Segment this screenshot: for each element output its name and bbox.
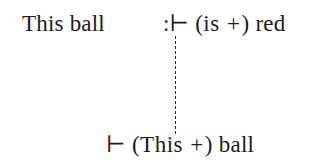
- type-group-bottom: (This +): [132, 132, 213, 157]
- dashed-connector-line: [175, 36, 176, 134]
- plus-icon-top: +: [226, 11, 241, 36]
- close-paren-icon: ): [241, 11, 249, 36]
- bottom-derivation-row: ⊢ (This +) ball: [0, 133, 327, 159]
- colon-turnstile-icon: :⊢: [163, 11, 189, 36]
- top-derivation-row: This ball :⊢ (is +) red: [0, 12, 327, 38]
- conclusion-expression: ⊢ (This +) ball: [106, 133, 254, 156]
- open-paren-icon: (: [132, 132, 140, 157]
- spacer: [220, 11, 226, 36]
- predicate-expression: :⊢ (is +) red: [163, 12, 285, 35]
- derivation-figure: This ball :⊢ (is +) red ⊢ (This +) ball: [0, 0, 327, 168]
- result-word-bottom: ball: [219, 132, 254, 157]
- subject-phrase: This ball: [22, 12, 105, 35]
- type-word-bottom: This: [140, 132, 183, 157]
- result-word-top: red: [256, 11, 286, 36]
- close-paren-icon: ): [205, 132, 213, 157]
- turnstile-icon: ⊢: [106, 132, 126, 157]
- plus-icon-bottom: +: [189, 132, 204, 157]
- type-group-top: (is +): [195, 11, 249, 36]
- type-word-top: is: [203, 11, 219, 36]
